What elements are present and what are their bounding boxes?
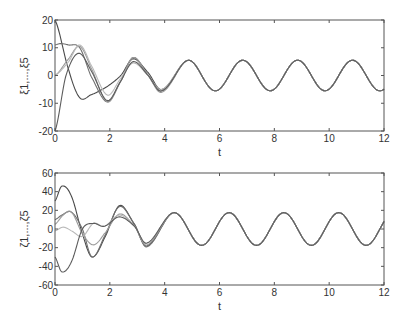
- bottom-curves: [55, 186, 384, 272]
- bottom-ticks: 024681012-60-40-200204060: [39, 168, 390, 299]
- x-tick-label: 8: [272, 287, 278, 298]
- x-tick-label: 6: [217, 287, 223, 298]
- top-curves: [55, 20, 384, 131]
- x-tick-label: 2: [107, 287, 113, 298]
- y-tick-label: 40: [42, 186, 54, 197]
- x-tick-label: 10: [324, 133, 336, 144]
- y-tick-label: -60: [39, 280, 54, 291]
- x-tick-label: 8: [272, 133, 278, 144]
- top-ylabel: ξ1,...,ξ5: [18, 57, 30, 94]
- top-xlabel: t: [218, 146, 221, 158]
- x-tick-label: 0: [52, 133, 58, 144]
- bottom-ylabel: ζ1,...,ζ5: [18, 210, 30, 247]
- y-tick-label: 20: [42, 15, 54, 26]
- series-line-3: [55, 46, 384, 102]
- series-line-3: [55, 211, 384, 245]
- top-axes-frame: [55, 20, 384, 131]
- x-tick-label: 0: [52, 287, 58, 298]
- bottom-axes-frame: [55, 173, 384, 285]
- y-tick-label: 10: [42, 42, 54, 53]
- bottom-axes: 024681012-60-40-200204060 t ζ1,...,ζ5: [18, 168, 390, 313]
- figure: 024681012-20-1001020 t ξ1,...,ξ5 0246810…: [0, 0, 409, 327]
- x-tick-label: 12: [378, 287, 390, 298]
- x-tick-label: 4: [162, 133, 168, 144]
- y-tick-label: -10: [39, 98, 54, 109]
- series-line-1: [55, 20, 384, 99]
- y-tick-label: -40: [39, 261, 54, 272]
- y-tick-label: 60: [42, 168, 54, 179]
- bottom-xlabel: t: [218, 300, 221, 312]
- series-line-4: [55, 213, 384, 246]
- x-tick-label: 6: [217, 133, 223, 144]
- top-axes: 024681012-20-1001020 t ξ1,...,ξ5: [18, 15, 390, 159]
- top-ticks: 024681012-20-1001020: [39, 15, 390, 145]
- y-tick-label: 0: [47, 70, 53, 81]
- y-tick-label: 0: [47, 224, 53, 235]
- x-tick-label: 10: [324, 287, 336, 298]
- y-tick-label: 20: [42, 205, 54, 216]
- y-tick-label: -20: [39, 242, 54, 253]
- x-tick-label: 4: [162, 287, 168, 298]
- x-tick-label: 2: [107, 133, 113, 144]
- series-line-5: [55, 213, 384, 272]
- x-tick-label: 12: [378, 133, 390, 144]
- y-tick-label: -20: [39, 126, 54, 137]
